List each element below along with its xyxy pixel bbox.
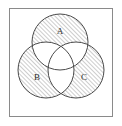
set-label-b: B [34, 72, 40, 82]
shaded-regions [9, 8, 113, 117]
region-c-only-hatch [9, 8, 113, 117]
venn-diagram-figure: A B C [0, 0, 122, 126]
venn-diagram-canvas: A B C [0, 0, 122, 126]
set-label-a: A [57, 26, 64, 36]
set-label-c: C [81, 72, 87, 82]
